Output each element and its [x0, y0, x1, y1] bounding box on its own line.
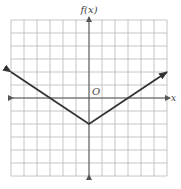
- y-axis-label: f(x): [79, 4, 97, 15]
- origin-label: O: [92, 86, 100, 97]
- coordinate-graph: f(x) x O: [0, 0, 181, 189]
- x-axis-label: x: [171, 93, 176, 103]
